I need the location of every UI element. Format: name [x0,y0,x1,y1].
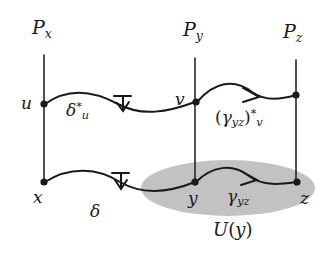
arrow-label-delta-star-u-base: δ [66,100,76,120]
arrow-label-gamma-star-v: (γyz)*v [215,108,263,128]
arrow-label-gamma-yz: γyz [227,188,249,208]
fiber-label-pz-base: P [283,20,296,42]
arrow-label-gamma-star-v-base: γ [222,107,232,127]
node-dot-w [292,91,299,98]
arrow-label-delta-star-u: δ*u [66,101,89,121]
node-label-y: y [188,190,198,207]
arrow-label-gamma-yz-base: γ [227,186,237,206]
node-dot-v [192,98,199,105]
fiber-label-px-base: P [32,16,45,38]
node-label-x: x [33,189,43,206]
node-dot-y [191,178,198,185]
arrow-label-gamma-star-v-open: ( [215,107,222,127]
region-label-paren-close: ) [245,219,252,240]
arrow-label-gamma-star-v-sub: v [256,116,262,129]
node-dot-z [293,178,300,185]
arrow-label-gamma-yz-sub: yz [237,195,249,208]
arrow-label-delta: δ [90,203,100,220]
region-label-u-of-y: U(y) [213,221,252,239]
arrow-delta-head [112,173,129,189]
fiber-label-px-sub: x [45,26,52,41]
node-dot-u [40,100,47,107]
arrow-label-gamma-star-v-close: ) [244,107,251,127]
arrow-label-delta-star-u-sub: u [82,109,89,122]
node-dot-x [40,178,47,185]
fiber-label-pz: Pz [283,22,302,44]
fiber-label-pz-sub: z [296,30,303,45]
fiber-label-py-sub: y [196,28,203,43]
diagram-canvas: Px Py Pz u v x y z δ*u (γyz)*v δ γyz U(y… [0,0,329,263]
fiber-label-py-base: P [183,18,196,40]
arrow-gamma-star-v-curve [197,84,296,102]
region-label-u: U [213,219,228,240]
node-label-z: z [300,190,309,207]
fiber-label-py: Py [183,20,203,42]
fiber-label-px: Px [32,18,52,40]
region-label-arg: y [235,219,245,240]
node-label-u: u [21,95,32,112]
arrow-label-gamma-star-v-basesub: yz [232,116,244,129]
node-label-v: v [175,91,185,108]
